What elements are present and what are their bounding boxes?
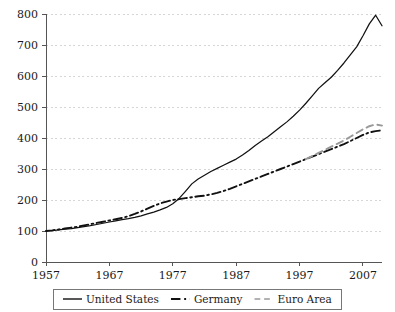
y-axis-tick-label: 400 bbox=[17, 132, 38, 145]
x-axis-tick-label: 1957 bbox=[32, 269, 60, 282]
x-axis-tick-label: 1977 bbox=[159, 269, 187, 282]
y-axis-tick-label: 300 bbox=[17, 163, 38, 176]
x-axis-tick-label: 2007 bbox=[349, 269, 377, 282]
y-axis-tick-label: 500 bbox=[17, 101, 38, 114]
y-axis-tick-label: 100 bbox=[17, 225, 38, 238]
chart-canvas: 0100200300400500600700800 19571967197719… bbox=[0, 0, 395, 312]
axes-group bbox=[42, 14, 382, 266]
x-axis-tick-label: 1967 bbox=[95, 269, 123, 282]
x-axis-tick-label: 1997 bbox=[286, 269, 314, 282]
series-group bbox=[46, 15, 382, 231]
series-line-germany bbox=[46, 130, 382, 231]
line-chart-figure: 0100200300400500600700800 19571967197719… bbox=[0, 0, 395, 312]
series-line-united-states bbox=[46, 15, 382, 231]
y-axis-tick-label: 800 bbox=[17, 8, 38, 21]
legend-label-germany: Germany bbox=[194, 293, 243, 305]
legend-label-united-states: United States bbox=[86, 293, 159, 305]
y-axis-tick-label: 600 bbox=[17, 70, 38, 83]
x-axis-tick-label: 1987 bbox=[222, 269, 250, 282]
y-axis-tick-label: 700 bbox=[17, 39, 38, 52]
series-line-euro-area bbox=[306, 124, 382, 159]
x-tick-labels-group: 195719671977198719972007 bbox=[32, 269, 377, 282]
gridlines-group bbox=[46, 14, 382, 231]
y-axis-tick-label: 200 bbox=[17, 194, 38, 207]
y-tick-labels-group: 0100200300400500600700800 bbox=[17, 8, 38, 269]
legend-group: United StatesGermanyEuro Area bbox=[53, 289, 342, 309]
legend-label-euro-area: Euro Area bbox=[278, 293, 332, 305]
y-axis-tick-label: 0 bbox=[31, 256, 38, 269]
